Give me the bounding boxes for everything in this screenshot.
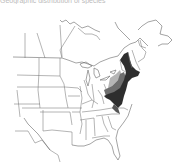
- distribution-map: [0, 0, 182, 168]
- us-state-lines: [14, 58, 128, 162]
- coastlines: [24, 104, 132, 160]
- distribution-shading: [104, 52, 140, 114]
- canada-boundaries: [25, 20, 172, 58]
